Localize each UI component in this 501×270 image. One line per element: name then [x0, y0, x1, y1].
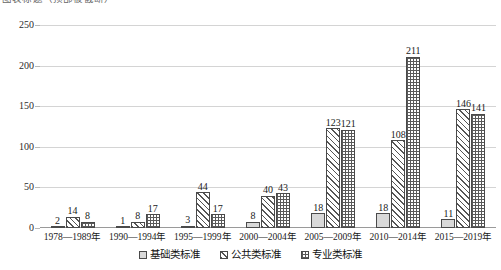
bar-slot: 123: [326, 25, 340, 228]
y-axis-tick-mark: [35, 66, 40, 67]
bar[interactable]: 211: [406, 57, 420, 228]
bar-slot: 40: [261, 25, 275, 228]
bar[interactable]: 8: [81, 222, 95, 228]
bar-value-label: 18: [378, 203, 388, 213]
y-axis-tick-label: 200: [0, 61, 34, 71]
bar-slot: 14: [66, 25, 80, 228]
bar-value-label: 211: [406, 46, 421, 56]
legend-label: 公共类标准: [231, 249, 281, 261]
bar-slot: 8: [81, 25, 95, 228]
bar-slot: 18: [311, 25, 325, 228]
bar-slot: 3: [181, 25, 195, 228]
y-axis-tick-label: 50: [0, 182, 34, 192]
bar[interactable]: 44: [196, 192, 210, 228]
bar-slot: 8: [131, 25, 145, 228]
bar-value-label: 44: [198, 182, 208, 192]
bar[interactable]: 123: [326, 128, 340, 228]
bar-slot: 11: [441, 25, 455, 228]
bar[interactable]: 17: [146, 214, 160, 228]
legend-label: 专业类标准: [312, 249, 362, 261]
legend-item[interactable]: 公共类标准: [220, 249, 281, 261]
bar[interactable]: 141: [471, 114, 485, 228]
x-axis-labels: 1978—1989年1990—1994年1995—1999年2000—2004年…: [40, 231, 496, 243]
plot-area: 2148181734417840431812312118108211111461…: [40, 25, 496, 228]
bar[interactable]: 146: [456, 109, 470, 228]
bar-slot: 2: [51, 25, 65, 228]
legend-item[interactable]: 基础类标准: [139, 249, 200, 261]
bar-value-label: 8: [250, 211, 255, 221]
bar-slot: 141: [471, 25, 485, 228]
bar-value-label: 8: [135, 211, 140, 221]
bar-slot: 1: [116, 25, 130, 228]
legend-swatch-icon: [139, 251, 147, 259]
legend-swatch-icon: [301, 251, 309, 259]
bar-group: 2148: [40, 25, 105, 228]
bar-value-label: 43: [278, 183, 288, 193]
y-axis-tick-mark: [35, 187, 40, 188]
bar[interactable]: 121: [341, 130, 355, 228]
bar-slot: 211: [406, 25, 420, 228]
y-axis-tick-label: 100: [0, 142, 34, 152]
bar-value-label: 8: [85, 211, 90, 221]
x-axis-tick-label: 1995—1999年: [170, 231, 235, 243]
bar-value-label: 2: [55, 216, 60, 226]
bar-slot: 8: [246, 25, 260, 228]
bar-slot: 17: [211, 25, 225, 228]
y-axis-tick-label: 0: [0, 223, 34, 233]
bar-group: 34417: [170, 25, 235, 228]
bar[interactable]: 43: [276, 193, 290, 228]
bar[interactable]: 1: [116, 226, 130, 228]
x-axis-tick-label: 2010—2014年: [366, 231, 431, 243]
bar[interactable]: 14: [66, 217, 80, 228]
bar-value-label: 17: [213, 204, 223, 214]
x-axis-tick-label: 1978—1989年: [40, 231, 105, 243]
bar[interactable]: 2: [51, 226, 65, 228]
bar-slot: 146: [456, 25, 470, 228]
bar-slot: 17: [146, 25, 160, 228]
bar-value-label: 146: [456, 99, 471, 109]
bar[interactable]: 8: [131, 222, 145, 228]
bar-slot: 43: [276, 25, 290, 228]
bar-slot: 121: [341, 25, 355, 228]
bar-groups: 2148181734417840431812312118108211111461…: [40, 25, 496, 228]
y-axis-tick-label: 150: [0, 101, 34, 111]
bar-value-label: 121: [341, 119, 356, 129]
chart-legend: 基础类标准公共类标准专业类标准: [0, 249, 501, 261]
chart-title: 图表标题（顶部被截断）: [0, 0, 501, 5]
chart-container: 图表标题（顶部被截断） 2148181734417840431812312118…: [0, 0, 501, 270]
bar[interactable]: 40: [261, 196, 275, 228]
legend-swatch-icon: [220, 251, 228, 259]
bar-value-label: 14: [68, 206, 78, 216]
bar-slot: 108: [391, 25, 405, 228]
y-axis-tick-mark: [35, 228, 40, 229]
bar-value-label: 40: [263, 185, 273, 195]
bar[interactable]: 8: [246, 222, 260, 228]
bar[interactable]: 3: [181, 226, 195, 228]
bar-value-label: 141: [471, 103, 486, 113]
x-axis-tick-label: 2005—2009年: [301, 231, 366, 243]
bar[interactable]: 18: [311, 213, 325, 228]
bar-slot: 18: [376, 25, 390, 228]
x-axis-tick-label: 2000—2004年: [235, 231, 300, 243]
legend-label: 基础类标准: [150, 249, 200, 261]
bar[interactable]: 17: [211, 214, 225, 228]
bar-slot: 44: [196, 25, 210, 228]
legend-item[interactable]: 专业类标准: [301, 249, 362, 261]
bar-value-label: 17: [148, 204, 158, 214]
bar[interactable]: 18: [376, 213, 390, 228]
bar-value-label: 3: [185, 215, 190, 225]
x-axis-tick-label: 1990—1994年: [105, 231, 170, 243]
bar-group: 18123121: [301, 25, 366, 228]
bar[interactable]: 11: [441, 219, 455, 228]
y-axis-tick-label: 250: [0, 20, 34, 30]
bar-value-label: 18: [313, 203, 323, 213]
bar-value-label: 1: [120, 216, 125, 226]
y-axis-tick-mark: [35, 106, 40, 107]
bar-value-label: 123: [326, 118, 341, 128]
bar[interactable]: 108: [391, 140, 405, 228]
bar-group: 84043: [235, 25, 300, 228]
bar-value-label: 11: [444, 209, 454, 219]
bar-group: 18108211: [366, 25, 431, 228]
bar-value-label: 108: [391, 130, 406, 140]
y-axis-tick-mark: [35, 147, 40, 148]
